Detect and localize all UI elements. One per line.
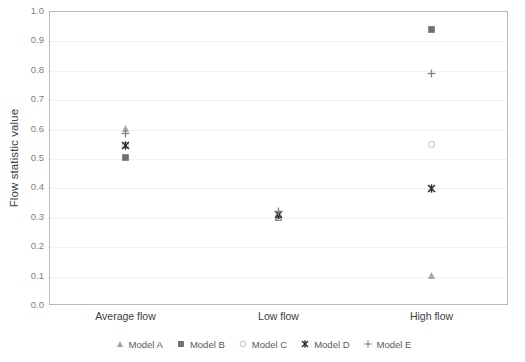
legend-triangle-icon <box>114 338 126 350</box>
gridline <box>50 218 507 219</box>
legend-item[interactable]: Model C <box>237 338 287 350</box>
data-point-plus <box>121 129 133 141</box>
data-point-x-star <box>121 141 133 153</box>
gridline <box>50 188 507 189</box>
data-point-x-star <box>427 184 439 196</box>
gridline <box>50 71 507 72</box>
data-point-circle-open <box>427 140 439 152</box>
legend-label: Model E <box>377 339 412 350</box>
flow-statistic-scatter-chart: Flow statistic value 0.00.10.20.30.40.50… <box>0 0 525 362</box>
legend-label: Model B <box>190 339 225 350</box>
y-tick-label: 0.8 <box>8 64 44 75</box>
gridline <box>50 277 507 278</box>
legend-square-icon <box>175 338 187 350</box>
legend-label: Model A <box>129 339 163 350</box>
legend-item[interactable]: Model D <box>299 338 349 350</box>
gridline <box>50 130 507 131</box>
y-tick-label: 0.7 <box>8 93 44 104</box>
x-tick-label: High flow <box>410 310 453 322</box>
legend-label: Model D <box>314 339 349 350</box>
gridline <box>50 41 507 42</box>
gridline <box>50 247 507 248</box>
x-tick-label: Average flow <box>95 310 156 322</box>
y-tick-label: 0.4 <box>8 181 44 192</box>
y-tick-label: 0.6 <box>8 123 44 134</box>
y-tick-label: 0.5 <box>8 152 44 163</box>
data-point-x-star <box>274 210 286 222</box>
legend-item[interactable]: Model A <box>114 338 163 350</box>
y-tick-label: 1.0 <box>8 5 44 16</box>
chart-legend: Model A Model B Model C Model D Model E <box>0 338 525 350</box>
legend-circle-open-icon <box>237 338 249 350</box>
x-axis-tick-labels: Average flowLow flowHigh flow <box>49 310 508 330</box>
legend-item[interactable]: Model B <box>175 338 225 350</box>
plot-area <box>49 11 508 305</box>
data-point-square <box>427 25 439 37</box>
y-tick-label: 0.0 <box>8 299 44 310</box>
data-point-square <box>274 213 286 225</box>
data-point-circle-open <box>121 141 133 153</box>
y-tick-label: 0.9 <box>8 34 44 45</box>
y-tick-label: 0.2 <box>8 240 44 251</box>
y-tick-label: 0.1 <box>8 270 44 281</box>
gridline <box>50 159 507 160</box>
x-tick-label: Low flow <box>258 310 299 322</box>
legend-label: Model C <box>252 339 287 350</box>
data-point-triangle <box>274 210 286 222</box>
legend-item[interactable]: Model E <box>362 338 412 350</box>
gridline <box>50 100 507 101</box>
legend-x-star-icon <box>299 338 311 350</box>
legend-plus-icon <box>362 338 374 350</box>
y-tick-label: 0.3 <box>8 211 44 222</box>
